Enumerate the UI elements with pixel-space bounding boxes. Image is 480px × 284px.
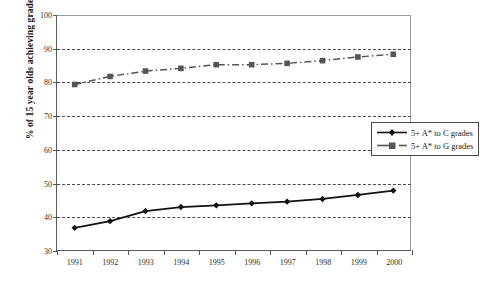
y-tick-label: 30 [44, 247, 52, 256]
x-tick-mark [270, 250, 271, 255]
data-point-diamond [107, 218, 113, 224]
x-tick-mark [341, 250, 342, 255]
series-1 [72, 187, 397, 231]
x-tick-label: 1997 [280, 258, 296, 267]
data-point-diamond [355, 192, 361, 198]
plot-area: 30405060708090100 1991199219931994199519… [56, 15, 411, 251]
y-tick-label: 70 [44, 112, 52, 121]
x-tick-label: 1991 [67, 258, 83, 267]
y-tick-label: 50 [44, 179, 52, 188]
legend: 5+ A* to C grades 5+ A* to G grades [371, 122, 479, 156]
data-point-diamond [72, 225, 78, 231]
x-tick-mark [235, 250, 236, 255]
data-point-diamond [213, 202, 219, 208]
y-axis-title: % of 15 year olds achieving grades [25, 0, 35, 157]
x-tick-mark [306, 250, 307, 255]
series-layer [57, 15, 411, 250]
data-point-square [107, 74, 113, 80]
line-chart: % of 15 year olds achieving grades 30405… [0, 0, 480, 284]
legend-item-0[interactable]: 5+ A* to C grades [376, 126, 473, 139]
x-tick-label: 1994 [173, 258, 189, 267]
x-tick-mark [199, 250, 200, 255]
data-point-square [391, 51, 397, 57]
legend-item-1[interactable]: 5+ A* to G grades [376, 139, 473, 152]
x-tick-mark [128, 250, 129, 255]
data-point-square [214, 62, 220, 68]
data-point-square [355, 54, 361, 60]
x-tick-label: 2000 [386, 258, 402, 267]
x-tick-label: 1995 [209, 258, 225, 267]
legend-key-diamond-icon [376, 127, 408, 138]
data-point-diamond [284, 198, 290, 204]
data-point-diamond [249, 200, 255, 206]
y-tick-label: 100 [40, 11, 52, 20]
x-tick-label: 1998 [315, 258, 331, 267]
series-line [75, 54, 394, 84]
y-tick-label: 80 [44, 78, 52, 87]
x-tick-label: 1996 [244, 258, 260, 267]
data-point-diamond [390, 187, 396, 193]
data-point-diamond [142, 208, 148, 214]
x-tick-label: 1999 [351, 258, 367, 267]
legend-label-1: 5+ A* to G grades [411, 141, 473, 151]
data-point-diamond [319, 196, 325, 202]
x-tick-mark [412, 250, 413, 255]
y-tick-label: 40 [44, 213, 52, 222]
x-tick-mark [164, 250, 165, 255]
x-tick-mark [93, 250, 94, 255]
data-point-square [178, 66, 184, 72]
legend-key-square-icon [376, 140, 408, 151]
x-tick-mark [377, 250, 378, 255]
series-line [75, 191, 394, 228]
data-point-square [249, 62, 255, 68]
x-tick-label: 1993 [138, 258, 154, 267]
y-tick-label: 90 [44, 44, 52, 53]
legend-label-0: 5+ A* to C grades [411, 128, 473, 138]
data-point-square [320, 58, 326, 64]
data-point-diamond [178, 204, 184, 210]
series-2 [72, 51, 396, 87]
x-tick-mark [57, 250, 58, 255]
data-point-square [284, 61, 290, 67]
y-tick-label: 60 [44, 145, 52, 154]
x-tick-label: 1992 [102, 258, 118, 267]
data-point-square [72, 82, 78, 88]
data-point-square [143, 68, 149, 74]
